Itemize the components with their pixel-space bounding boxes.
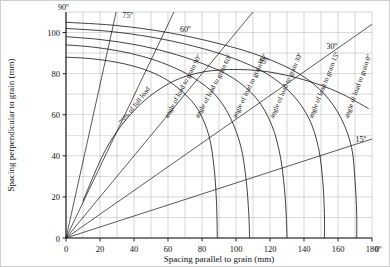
y-axis-tick-label: 100 — [47, 28, 60, 38]
y-axis-tick-label: 0 — [56, 234, 60, 244]
x-axis-tick-label: 40 — [130, 244, 139, 254]
angle-label-0: 0º — [375, 245, 382, 254]
x-axis-tick-label: 80 — [198, 244, 207, 254]
x-axis-tick-label: 0 — [64, 244, 68, 254]
angle-label-60: 60º — [180, 25, 191, 34]
x-axis-tick-label: 160 — [332, 244, 345, 254]
y-axis-tick-label: 20 — [52, 192, 61, 202]
x-axis-tick-label: 100 — [230, 244, 243, 254]
x-axis-tick-label: 120 — [264, 244, 277, 254]
chart-background — [0, 0, 390, 267]
angle-label-75: 75º — [122, 11, 133, 20]
y-axis-title: Spacing perpendicular to grain (mm) — [6, 59, 16, 192]
x-axis-tick-label: 140 — [298, 244, 311, 254]
spacing-nomogram-chart: 020406080100120140160180204060801000Spac… — [0, 0, 390, 267]
chart-figure: 020406080100120140160180204060801000Spac… — [0, 0, 390, 267]
x-axis-title: Spacing parallel to grain (mm) — [164, 254, 274, 264]
x-axis-tick-label: 20 — [96, 244, 105, 254]
angle-label-30: 30º — [326, 42, 337, 51]
y-axis-tick-label: 80 — [52, 69, 61, 79]
x-axis-tick-label: 60 — [164, 244, 173, 254]
y-axis-tick-label: 60 — [52, 110, 61, 120]
y-axis-tick-label: 40 — [52, 151, 61, 161]
angle-label-15: 15º — [356, 135, 367, 144]
angle-label-90: 90º — [58, 3, 69, 12]
